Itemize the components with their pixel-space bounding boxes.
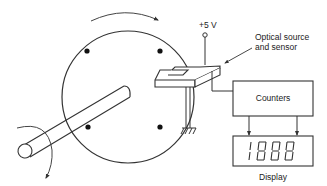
counters-label: Counters	[256, 93, 291, 103]
supply-label: +5 V	[199, 20, 217, 30]
optical-sensor	[155, 66, 220, 87]
disk-hole	[85, 124, 90, 129]
sensor-label-line2: and sensor	[255, 42, 297, 52]
disk-rotation-arrow	[91, 13, 158, 21]
disk-hole	[84, 48, 89, 53]
rotating-disk	[62, 31, 194, 163]
diagram-canvas: +5 V Optical source and sensor Counters …	[0, 0, 327, 186]
sensor-label-line1: Optical source	[255, 32, 310, 42]
disk-hole	[157, 48, 162, 53]
sensor-leader-arrow	[225, 48, 252, 63]
display-label: Display	[259, 172, 288, 182]
disk-hole	[157, 124, 162, 129]
supply-terminal: +5 V	[199, 20, 217, 65]
shaft	[15, 86, 130, 161]
